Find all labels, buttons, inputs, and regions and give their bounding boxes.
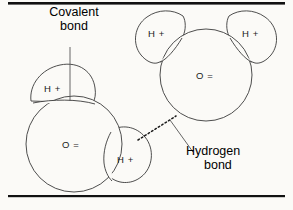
left-molecule-hydrogen-label-top: H + — [44, 83, 61, 94]
left-molecule-oxygen-label: O = — [62, 139, 79, 150]
covalent-bond-label-line1: Covalent — [24, 6, 124, 20]
covalent-bond-label-line2: bond — [24, 20, 124, 34]
water-molecule-left: H + H + O = — [26, 64, 151, 192]
right-molecule-hydrogen-label-right: H + — [242, 28, 259, 39]
bottom-rule — [8, 195, 285, 197]
hydrogen-bond-label-line2: bond — [186, 159, 286, 173]
hydrogen-bond-callout: Hydrogen bond — [186, 145, 286, 172]
hydrogen-bond-label-line1: Hydrogen — [186, 145, 286, 159]
water-hydrogen-bond-figure: H + H + O = H + H + O = Covalent — [0, 0, 293, 210]
covalent-bond-callout: Covalent bond — [24, 6, 124, 33]
water-molecule-right: H + H + O = — [135, 11, 276, 121]
right-molecule-hydrogen-label-left: H + — [148, 28, 165, 39]
left-molecule-hydrogen-label-right: H + — [117, 154, 134, 165]
right-molecule-oxygen-label: O = — [196, 70, 213, 81]
